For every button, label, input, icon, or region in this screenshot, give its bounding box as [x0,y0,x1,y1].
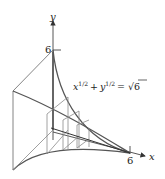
x-axis [53,132,145,156]
solid-upper-curve [13,91,130,153]
x-axis-label: x [149,151,155,162]
x-tick-label: 6 [127,155,133,166]
curve-equation: x1/2+y1/2=√6 [73,80,140,92]
base-curve [53,50,130,153]
solid-top-edge [13,50,53,91]
y-tick-label: 6 [45,44,51,55]
solid-volume-diagram: y 6 6 x x1/2+y1/2=√6 [0,0,165,179]
y-axis-label: y [49,11,56,22]
